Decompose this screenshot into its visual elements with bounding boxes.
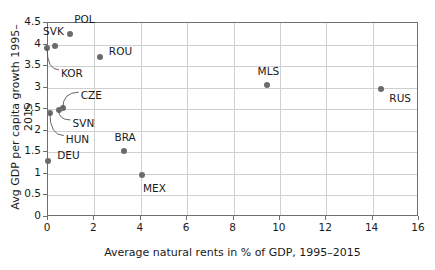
- scatter-chart: 00.511.522.533.544.5 Avg GDP per capita …: [0, 0, 435, 270]
- data-point-deu[interactable]: [45, 158, 51, 164]
- data-point-rus[interactable]: [378, 86, 384, 92]
- point-label-rus: RUS: [389, 92, 411, 104]
- point-label-mex: MEX: [143, 182, 166, 194]
- point-label-cze: CZE: [81, 89, 102, 101]
- point-label-mls: MLS: [258, 65, 280, 77]
- point-label-bra: BRA: [115, 131, 136, 143]
- point-label-deu: DEU: [57, 149, 79, 161]
- data-point-mls[interactable]: [264, 82, 270, 88]
- data-point-mex[interactable]: [139, 172, 145, 178]
- data-point-bra[interactable]: [121, 148, 127, 154]
